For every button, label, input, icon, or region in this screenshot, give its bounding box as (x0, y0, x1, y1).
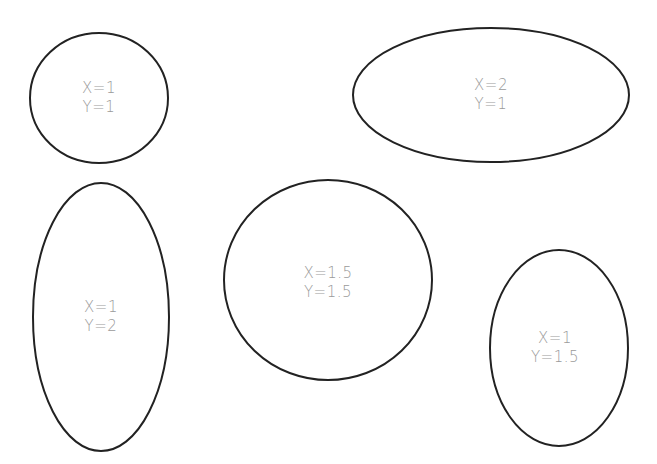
y-scale-label: Y=2 (84, 317, 118, 336)
x-scale-label: X=1.5 (303, 264, 352, 283)
ellipse-3-label: X=1 Y=2 (84, 298, 118, 336)
x-scale-label: X=2 (474, 76, 508, 95)
ellipse-4-label: X=1.5 Y=1.5 (303, 264, 352, 302)
x-scale-label: X=1 (531, 329, 579, 348)
ellipse-5-label: X=1 Y=1.5 (531, 329, 579, 367)
ellipse-2-label: X=2 Y=1 (474, 76, 508, 114)
y-scale-label: Y=1.5 (303, 283, 352, 302)
y-scale-label: Y=1 (82, 98, 116, 117)
y-scale-label: Y=1 (474, 95, 508, 114)
ellipse-1-label: X=1 Y=1 (82, 79, 116, 117)
x-scale-label: X=1 (82, 79, 116, 98)
x-scale-label: X=1 (84, 298, 118, 317)
y-scale-label: Y=1.5 (531, 348, 579, 367)
diagram-canvas (0, 0, 657, 464)
